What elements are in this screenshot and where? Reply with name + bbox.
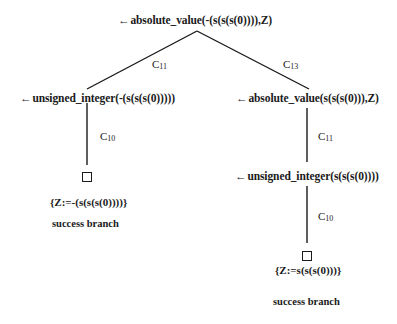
edge-label-c10-left: C10: [100, 131, 115, 142]
left-arrow-icon: ←: [118, 14, 129, 26]
right-empty-clause-box-icon: [302, 251, 312, 261]
right-goal-2-text: unsigned_integer(s(s(s(0)))): [247, 170, 378, 182]
right-success-label: success branch: [273, 297, 340, 308]
left-arrow-icon: ←: [236, 92, 247, 104]
right-goal-node-2: ←unsigned_integer(s(s(s(0)))): [235, 171, 379, 183]
right-goal-1-text: absolute_value(s(s(s(0))),Z): [248, 92, 378, 104]
left-arrow-icon: ←: [20, 92, 31, 104]
left-substitution: {Z:=-(s(s(s(0))))}: [50, 197, 127, 208]
resolution-tree-diagram: ←absolute_value(-(s(s(s(0)))),Z) C11 C13…: [0, 0, 397, 324]
left-success-label: success branch: [52, 219, 119, 230]
left-arrow-icon: ←: [235, 170, 246, 182]
right-goal-node-1: ←absolute_value(s(s(s(0))),Z): [236, 93, 379, 105]
left-goal-node: ←unsigned_integer(-(s(s(s(0))))): [20, 93, 175, 105]
edge-label-c10-right: C10: [318, 211, 333, 222]
right-substitution: {Z:=s(s(s(0)))}: [275, 265, 341, 276]
edge-root-to-left: [87, 31, 197, 89]
edge-label-c13-right: C13: [283, 59, 298, 70]
root-goal-node: ←absolute_value(-(s(s(s(0)))),Z): [118, 15, 272, 27]
left-goal-text: unsigned_integer(-(s(s(s(0))))): [32, 92, 175, 104]
left-empty-clause-box-icon: [82, 172, 92, 182]
edge-label-c11-left: C11: [152, 59, 167, 70]
edge-label-c11-right: C11: [318, 131, 333, 142]
root-goal-text: absolute_value(-(s(s(s(0)))),Z): [130, 14, 272, 26]
